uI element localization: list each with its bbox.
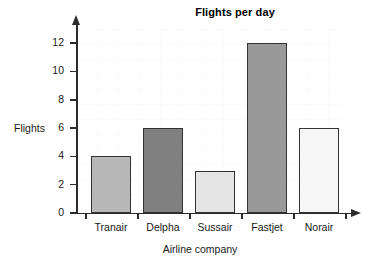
x-axis-tick-label: Tranair bbox=[85, 221, 137, 233]
bar-tranair bbox=[91, 156, 131, 213]
y-axis-tick bbox=[70, 212, 76, 214]
y-axis-line bbox=[76, 24, 78, 214]
x-axis-tick bbox=[85, 213, 87, 219]
x-axis-tick bbox=[241, 213, 243, 219]
x-axis-tick bbox=[345, 213, 347, 219]
x-axis-line bbox=[76, 213, 352, 215]
y-axis-tick-label: 2 bbox=[24, 179, 64, 190]
bar-delpha bbox=[143, 128, 183, 213]
bar-sussair bbox=[195, 171, 235, 213]
y-axis-tick-label: 10 bbox=[24, 65, 64, 76]
x-axis-tick bbox=[189, 213, 191, 219]
x-axis-tick-label: Fastjet bbox=[241, 221, 293, 233]
bar-norair bbox=[299, 128, 339, 213]
y-axis-tick bbox=[70, 127, 76, 129]
y-axis-tick bbox=[70, 184, 76, 186]
x-axis-tick-label: Sussair bbox=[189, 221, 241, 233]
y-axis-arrow-icon bbox=[72, 15, 80, 25]
y-axis-title: Flights bbox=[14, 122, 60, 134]
x-axis-arrow-icon bbox=[351, 209, 361, 217]
y-axis-tick-label: 0 bbox=[24, 207, 64, 218]
bar-chart: Flights per day 024681012 Flights Tranai… bbox=[0, 0, 386, 271]
y-axis-tick bbox=[70, 42, 76, 44]
plot-area bbox=[76, 29, 343, 213]
y-axis-tick bbox=[70, 71, 76, 73]
y-axis-tick-label: 8 bbox=[24, 94, 64, 105]
y-axis-tick-label: 12 bbox=[24, 37, 64, 48]
x-axis-title: Airline company bbox=[120, 243, 280, 255]
chart-title: Flights per day bbox=[150, 6, 320, 18]
x-axis-tick-label: Delpha bbox=[137, 221, 189, 233]
y-axis-tick bbox=[70, 99, 76, 101]
y-axis-tick bbox=[70, 156, 76, 158]
x-axis-tick-label: Norair bbox=[293, 221, 345, 233]
x-axis-tick bbox=[293, 213, 295, 219]
x-axis-tick bbox=[137, 213, 139, 219]
bar-fastjet bbox=[247, 43, 287, 213]
y-axis-tick-label: 4 bbox=[24, 150, 64, 161]
